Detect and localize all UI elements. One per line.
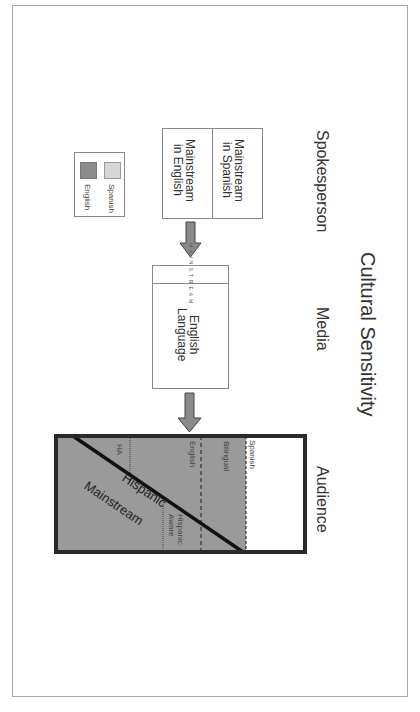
audience-label-english: English xyxy=(188,441,196,467)
audience-label-ha: HA xyxy=(115,444,123,455)
audience-label-spanish: Spanish xyxy=(248,440,256,469)
audience-chart xyxy=(0,0,420,712)
audience-label-bilingual: Bilingual xyxy=(222,441,230,471)
audience-label-hispanic-aware: Hispanic Aware xyxy=(167,514,184,545)
